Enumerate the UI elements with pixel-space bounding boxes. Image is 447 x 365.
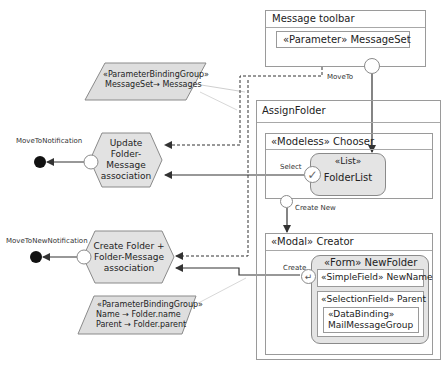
new-folder-form[interactable]: «Form» NewFolder «SimpleField» NewName «… xyxy=(311,255,429,344)
divider xyxy=(266,149,432,150)
action-line: Folder- xyxy=(96,149,156,160)
data-binding-name: MailMessageGroup xyxy=(328,320,413,330)
create-new-port-circle[interactable] xyxy=(280,195,293,208)
folder-list-stereotype: «List» xyxy=(311,156,385,167)
assign-folder-title: AssignFolder xyxy=(262,105,326,116)
folder-list[interactable]: «List» FolderList xyxy=(310,153,386,196)
create-label: Create xyxy=(283,264,306,272)
action-line: Update xyxy=(96,138,156,149)
param-binding-2-line: Name → Folder.name xyxy=(96,310,181,320)
parameter-label: «Parameter» MessageSet xyxy=(283,34,411,45)
parameter-box[interactable]: «Parameter» MessageSet xyxy=(276,31,410,48)
selection-field-parent[interactable]: «SelectionField» Parent «DataBinding» Ma… xyxy=(317,291,424,337)
simple-field-newname[interactable]: «SimpleField» NewName xyxy=(317,269,424,287)
select-check-icon[interactable]: ✓ xyxy=(304,166,321,183)
update-action-label[interactable]: Update Folder- Message association xyxy=(96,138,156,182)
data-binding-box[interactable]: «DataBinding» MailMessageGroup xyxy=(323,307,419,333)
creator-title: «Modal» Creator xyxy=(271,236,354,247)
folder-list-name: FolderList xyxy=(311,172,385,183)
select-label: Select xyxy=(280,163,302,171)
message-toolbar-title: Message toolbar xyxy=(272,13,355,24)
param-binding-2-line: Parent → Folder.parent xyxy=(96,320,186,330)
notification-label: MoveToNotification xyxy=(16,137,82,145)
param-binding-1-stereotype: «ParameterBindingGroup» xyxy=(103,70,209,80)
param-binding-2-stereotype: «ParameterBindingGroup» xyxy=(97,300,203,310)
action-line: Message xyxy=(96,160,156,171)
create-action-label[interactable]: Create Folder + Folder-Message associati… xyxy=(90,241,168,274)
divider xyxy=(266,250,432,251)
action-line: Create Folder + xyxy=(90,241,168,252)
form-title: «Form» NewFolder xyxy=(324,257,417,268)
divider xyxy=(266,27,425,28)
action-line: Folder-Message xyxy=(90,252,168,263)
chooser-title: «Modeless» Chooser xyxy=(271,136,374,147)
move-to-label: MoveTo xyxy=(327,73,353,81)
divider xyxy=(257,122,440,123)
create-new-label: Create New xyxy=(295,204,336,212)
selection-field-label: «SelectionField» Parent xyxy=(321,294,426,304)
param-binding-1-line: MessageSet→ Messages xyxy=(105,80,202,90)
notification-label: MoveToNewNotification xyxy=(6,237,88,245)
action-line: association xyxy=(96,171,156,182)
message-toolbar-panel[interactable]: Message toolbar «Parameter» MessageSet xyxy=(265,10,426,67)
move-to-port-circle[interactable] xyxy=(364,58,380,74)
data-binding-stereotype: «DataBinding» xyxy=(328,309,394,319)
simple-field-label: «SimpleField» NewName xyxy=(321,272,433,282)
action-line: association xyxy=(90,263,168,274)
